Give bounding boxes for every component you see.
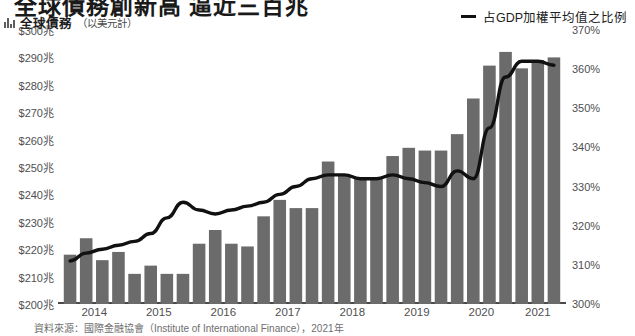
bar bbox=[548, 57, 561, 304]
x-axis-tick: 2016 bbox=[210, 306, 236, 318]
bar bbox=[290, 208, 303, 304]
y-axis-tick-right: 310% bbox=[572, 259, 600, 271]
y-axis-tick-left: $240兆 bbox=[19, 186, 54, 202]
x-axis-tick: 2015 bbox=[146, 306, 172, 318]
y-axis-tick-left: $260兆 bbox=[19, 132, 54, 148]
bar bbox=[128, 274, 141, 304]
bar bbox=[451, 134, 464, 304]
x-axis-tick: 2020 bbox=[469, 306, 495, 318]
y-axis-tick-left: $300兆 bbox=[19, 22, 54, 38]
x-axis-tick: 2014 bbox=[81, 306, 107, 318]
bar bbox=[532, 60, 545, 304]
bar bbox=[225, 244, 238, 304]
y-axis-right: 300%310%320%330%340%350%360%370% bbox=[566, 30, 632, 304]
y-axis-tick-left: $280兆 bbox=[19, 77, 54, 93]
bar bbox=[386, 156, 399, 304]
legend-line-series: 占GDP加權平均值之比例 bbox=[461, 7, 627, 26]
bar bbox=[322, 162, 335, 304]
bar-chart-icon bbox=[4, 17, 15, 28]
bar bbox=[144, 266, 157, 304]
y-axis-tick-right: 370% bbox=[572, 24, 600, 36]
y-axis-tick-left: $290兆 bbox=[19, 49, 54, 65]
line-icon bbox=[461, 15, 476, 18]
x-axis-tick: 2017 bbox=[275, 306, 301, 318]
bar bbox=[435, 151, 448, 304]
bar bbox=[515, 68, 528, 304]
y-axis-tick-right: 340% bbox=[572, 141, 600, 153]
plot-area bbox=[62, 30, 562, 304]
x-axis-tick: 2021 bbox=[525, 306, 551, 318]
bar bbox=[80, 238, 93, 304]
bar bbox=[257, 216, 270, 304]
y-axis-tick-right: 330% bbox=[572, 181, 600, 193]
bar bbox=[354, 178, 367, 304]
y-axis-tick-left: $230兆 bbox=[19, 214, 54, 230]
y-axis-tick-left: $200兆 bbox=[19, 296, 54, 312]
bar bbox=[241, 246, 254, 304]
y-axis-tick-right: 360% bbox=[572, 63, 600, 75]
y-axis-tick-left: $220兆 bbox=[19, 241, 54, 257]
y-axis-tick-left: $210兆 bbox=[19, 269, 54, 285]
legend-bar-unit: （以美元計） bbox=[77, 15, 137, 30]
y-axis-tick-left: $270兆 bbox=[19, 104, 54, 120]
legend-line-label: 占GDP加權平均值之比例 bbox=[483, 7, 627, 26]
bar bbox=[209, 230, 222, 304]
y-axis-tick-right: 300% bbox=[572, 298, 600, 310]
chart-canvas bbox=[62, 30, 562, 304]
x-axis-tick: 2018 bbox=[340, 306, 366, 318]
source-note: 資料來源：國際金融協會（Institute of International F… bbox=[34, 320, 344, 335]
bar bbox=[419, 151, 432, 304]
bar bbox=[96, 260, 109, 304]
bar bbox=[483, 66, 496, 304]
bar bbox=[338, 175, 351, 304]
bar bbox=[273, 200, 286, 304]
bar bbox=[177, 274, 190, 304]
y-axis-left: $200兆$210兆$220兆$230兆$240兆$250兆$260兆$270兆… bbox=[0, 30, 58, 304]
bar bbox=[193, 244, 206, 304]
x-axis-tick: 2019 bbox=[404, 306, 430, 318]
bar bbox=[467, 99, 480, 305]
bar bbox=[306, 208, 319, 304]
bar bbox=[161, 274, 174, 304]
y-axis-tick-left: $250兆 bbox=[19, 159, 54, 175]
y-axis-tick-right: 320% bbox=[572, 220, 600, 232]
bar bbox=[370, 178, 383, 304]
y-axis-tick-right: 350% bbox=[572, 102, 600, 114]
bar bbox=[112, 252, 125, 304]
bar bbox=[402, 148, 415, 304]
